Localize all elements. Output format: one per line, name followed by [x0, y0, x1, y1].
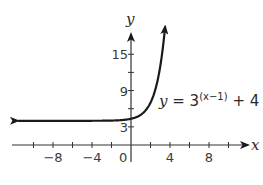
- x-axis-label: x: [251, 136, 260, 154]
- function-graph: −8−448 3915 x y 0 y = 3(x−1) + 4: [0, 0, 263, 185]
- equation-base: = 3: [167, 92, 199, 110]
- x-tick-label: −8: [43, 150, 62, 165]
- y-tick-label: 9: [120, 84, 128, 99]
- y-tick-label: 15: [111, 47, 128, 62]
- y-axis-label: y: [125, 10, 135, 28]
- y-tick-label: 3: [120, 120, 128, 135]
- x-tick-labels: −8−448: [43, 150, 213, 165]
- exponential-curve: [18, 26, 165, 120]
- x-tick-label: 4: [166, 150, 174, 165]
- x-tick-label: 8: [205, 150, 213, 165]
- equation-exponent: (x−1): [199, 91, 228, 102]
- equation-tail: + 4: [228, 92, 260, 110]
- y-tick-labels: 3915: [111, 47, 128, 135]
- origin-label: 0: [119, 150, 127, 165]
- x-tick-label: −4: [82, 150, 101, 165]
- equation-label: y = 3(x−1) + 4: [158, 91, 259, 110]
